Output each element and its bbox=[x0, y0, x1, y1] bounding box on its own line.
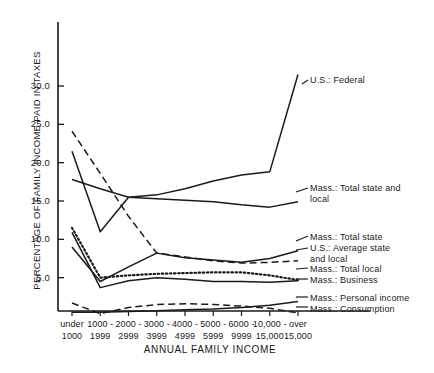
legend-label: Mass.: Total local bbox=[310, 264, 382, 275]
legend-label: U.S.: Federal bbox=[310, 75, 365, 86]
legend-leader-line bbox=[302, 80, 308, 84]
y-axis-tick-label: 5.0 bbox=[16, 272, 50, 283]
legend-leader-line bbox=[296, 268, 308, 269]
series-line bbox=[72, 228, 298, 280]
legend-leader-line bbox=[296, 188, 308, 192]
chart-container: PERCENTAGE OF FAMILY INCOME PAID IN TAXE… bbox=[0, 0, 434, 373]
x-axis-tick-label-line2: 15,000 bbox=[273, 330, 323, 342]
y-axis-tick-label: 25.0 bbox=[16, 118, 50, 129]
legend-leader-line bbox=[296, 248, 308, 250]
legend-label: Mass.: Consumption bbox=[310, 304, 395, 315]
x-axis-tick-label-line1: over bbox=[273, 318, 323, 330]
legend-label: Mass.: Personal income bbox=[310, 293, 409, 304]
legend-label: U.S.: Average state and local bbox=[310, 243, 390, 265]
legend-leader-line bbox=[296, 236, 308, 241]
series-line bbox=[72, 131, 298, 263]
legend-label: Mass.: Business bbox=[310, 275, 378, 286]
y-axis-tick-label: 30.0 bbox=[16, 80, 50, 91]
legend-label: Mass.: Total state and local bbox=[310, 183, 401, 205]
y-axis-tick-label: 10.0 bbox=[16, 233, 50, 244]
series-line bbox=[72, 75, 298, 232]
y-axis-tick-label: 15.0 bbox=[16, 195, 50, 206]
y-axis-tick-label: 20.0 bbox=[16, 157, 50, 168]
series-line bbox=[72, 180, 298, 208]
legend-label: Mass.: Total state bbox=[310, 232, 383, 243]
x-axis-tick-label: over15,000 bbox=[273, 318, 323, 342]
